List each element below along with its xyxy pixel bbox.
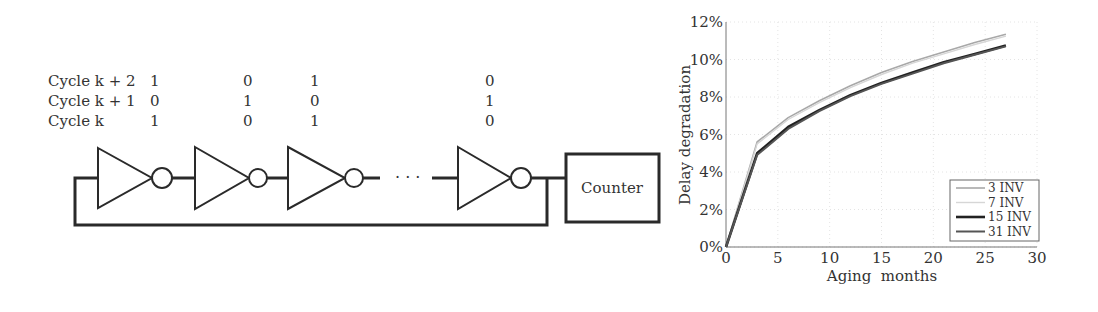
bit-value: 0	[310, 92, 320, 110]
y-tick-label: 4%	[699, 163, 723, 181]
legend-entry: 31 INV	[988, 225, 1031, 239]
x-tick-label: 30	[1027, 249, 1046, 267]
x-tick-label: 0	[721, 249, 731, 267]
ellipsis: · · ·	[395, 168, 420, 187]
series-line-3-inv	[726, 34, 1006, 247]
row-label-cycle-k: Cycle k	[48, 112, 105, 130]
inverter-2	[195, 147, 267, 209]
chart-grid	[726, 22, 1037, 247]
bit-value: 0	[243, 72, 253, 90]
y-tick-label: 8%	[699, 88, 723, 106]
legend-entry: 3 INV	[988, 181, 1024, 195]
series-line-15-inv	[726, 45, 1006, 247]
y-tick-label: 12%	[690, 13, 723, 31]
bit-value: 0	[150, 92, 160, 110]
bit-value: 1	[310, 72, 320, 90]
x-tick-label: 25	[976, 249, 995, 267]
x-tick-labels: 051015202530	[721, 249, 1046, 267]
x-tick-label: 10	[820, 249, 839, 267]
series-line-31-inv	[726, 46, 1006, 247]
x-axis-label: Aging months	[826, 267, 937, 285]
x-tick-label: 5	[773, 249, 783, 267]
x-tick-label: 15	[872, 249, 891, 267]
inverter-3	[288, 147, 363, 209]
chart-axes	[726, 22, 1037, 247]
chart-legend: 3 INV7 INV15 INV31 INV	[950, 180, 1039, 241]
bit-value: 1	[150, 72, 160, 90]
x-tick-label: 20	[924, 249, 943, 267]
legend-entry: 7 INV	[988, 196, 1024, 210]
y-tick-label: 6%	[699, 126, 723, 144]
y-tick-label: 0%	[699, 238, 723, 256]
y-tick-label: 10%	[690, 51, 723, 69]
counter-label: Counter	[581, 179, 644, 197]
bit-value: 0	[485, 72, 495, 90]
bit-value: 0	[485, 112, 495, 130]
bit-value: 1	[310, 112, 320, 130]
bit-value: 1	[243, 92, 253, 110]
legend-entry: 15 INV	[988, 210, 1031, 224]
inverter-n	[458, 147, 531, 209]
inverter-1	[98, 148, 172, 208]
y-tick-label: 2%	[699, 201, 723, 219]
bit-value: 1	[485, 92, 495, 110]
bit-value: 0	[243, 112, 253, 130]
bit-value: 1	[150, 112, 160, 130]
series-line-7-inv	[726, 36, 1006, 247]
row-label-cycle-k1: Cycle k + 1	[48, 92, 136, 110]
ring-oscillator-diagram: Cycle k + 2 Cycle k + 1 Cycle k 1 0 1 0 …	[0, 0, 680, 312]
cycle-table: Cycle k + 2 Cycle k + 1 Cycle k 1 0 1 0 …	[48, 72, 495, 130]
row-label-cycle-k2: Cycle k + 2	[48, 72, 136, 90]
y-tick-labels: 0%2%4%6%8%10%12%	[690, 13, 723, 256]
chart-series	[726, 34, 1006, 247]
